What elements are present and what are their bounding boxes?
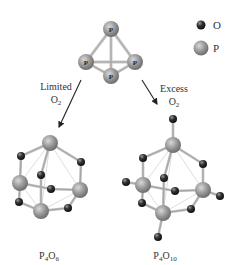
subscript: 6: [55, 255, 59, 263]
p-atom: [42, 135, 58, 151]
condition-limited-line2: O2: [51, 95, 62, 107]
p-atom: [33, 203, 49, 219]
o-atom: [17, 152, 25, 160]
p-atom: P: [127, 54, 143, 70]
diagram-canvas: P P P P: [0, 0, 241, 265]
p-atom: [12, 175, 28, 191]
p-atom: P: [103, 68, 119, 84]
o-atom: [15, 198, 23, 206]
p-atom: P: [78, 54, 94, 70]
subscript: 2: [176, 101, 180, 109]
svg-text:P: P: [109, 26, 114, 34]
subscript: 10: [170, 255, 177, 263]
legend-phosphorus-icon: [194, 41, 209, 56]
p-atom: [165, 137, 181, 153]
svg-text:P: P: [84, 59, 89, 67]
subscript: 2: [58, 99, 62, 107]
o-atom: [37, 171, 45, 179]
phosphorus-oxides-diagram: P P P P: [0, 0, 241, 265]
product-label-p4o6: P4O6: [39, 251, 59, 263]
o-atom-terminal: [122, 178, 130, 186]
p-atom: [135, 177, 151, 193]
p4-molecule: P P P P: [78, 21, 143, 84]
condition-excess-line1: Excess: [160, 84, 188, 94]
o-atom: [77, 158, 85, 166]
o-atom: [139, 154, 147, 162]
o-atom: [199, 160, 207, 168]
p4o10-molecule: [122, 115, 224, 241]
legend-label-oxygen: O: [213, 20, 221, 31]
legend: [194, 21, 209, 56]
product-label-p4o10: P4O10: [153, 251, 176, 263]
svg-text:P: P: [109, 73, 114, 81]
o-atom: [171, 187, 179, 195]
arrow-excess: [142, 80, 157, 104]
o-atom-terminal: [154, 233, 162, 241]
o-atom: [160, 174, 168, 182]
o-atom: [64, 204, 72, 212]
condition-limited-line1: Limited: [40, 82, 72, 92]
p-atom: [195, 182, 211, 198]
o-atom: [138, 199, 146, 207]
svg-text:P: P: [133, 59, 138, 67]
o-atom-terminal: [169, 115, 177, 123]
legend-label-phosphorus: P: [213, 43, 219, 54]
o-atom: [187, 205, 195, 213]
legend-oxygen-icon: [197, 21, 206, 30]
p-atom: P: [103, 21, 119, 37]
o-atom: [47, 185, 55, 193]
p-atom: [155, 205, 171, 221]
o-atom-terminal: [216, 192, 224, 200]
condition-excess-line2: O2: [169, 97, 180, 109]
p-atom: [72, 182, 88, 198]
p4o6-molecule: [12, 135, 88, 219]
